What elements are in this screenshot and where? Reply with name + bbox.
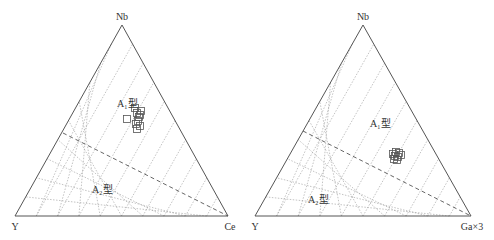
data-point-square: [137, 123, 144, 130]
region-label-a2: A2型: [308, 193, 329, 206]
grid-lines-right: [266, 44, 460, 216]
grid-line: [266, 197, 450, 216]
grid-line: [320, 82, 396, 216]
data-point-square: [124, 116, 131, 123]
right-ternary: Nb Y Ga×3 A1型 A2型: [251, 11, 483, 232]
vertex-label-top: Nb: [116, 11, 128, 22]
region-label-a1: A1型: [117, 97, 138, 110]
grid-line: [449, 197, 460, 216]
grid-line: [385, 140, 428, 216]
grid-line: [428, 178, 450, 216]
region-label-a2: A2型: [92, 183, 113, 196]
vertex-label-right: Ga×3: [461, 221, 483, 232]
data-points-right: [390, 149, 405, 164]
grid-line: [100, 101, 164, 216]
grid-line: [164, 159, 196, 216]
grid-line: [287, 159, 406, 216]
grid-line: [79, 101, 100, 216]
vertex-label-left: Y: [11, 221, 18, 232]
vertex-label-top: Nb: [357, 11, 369, 22]
ternary-diagrams: Nb Y Ce A1型 A2型 Nb Y Ga×3 A1型 A2型: [0, 0, 494, 240]
triangle-frame-left: [15, 25, 228, 216]
data-point-square: [134, 110, 141, 117]
triangle-frame-right: [255, 25, 471, 216]
grid-line: [277, 44, 353, 216]
grid-lines-left: [26, 44, 218, 216]
left-ternary: Nb Y Ce A1型 A2型: [11, 11, 236, 232]
boundary-dashed-left: [63, 133, 228, 216]
grid-line: [58, 140, 143, 216]
grid-line: [69, 121, 122, 217]
grid-line: [406, 159, 438, 216]
grid-line: [26, 197, 207, 216]
grid-line: [185, 178, 206, 216]
vertex-label-right: Ce: [224, 221, 236, 232]
grid-line: [143, 140, 186, 216]
region-label-a1: A1型: [370, 117, 391, 130]
vertex-label-left: Y: [251, 221, 258, 232]
